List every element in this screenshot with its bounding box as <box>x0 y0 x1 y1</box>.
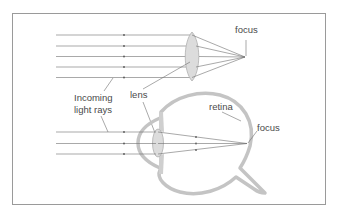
eye-focus-label: focus <box>257 122 280 133</box>
incoming-label-line1: Incoming <box>74 92 113 103</box>
top-focus-label: focus <box>235 24 258 35</box>
diagram-frame <box>13 14 326 205</box>
eye-lens <box>153 129 164 157</box>
incoming-label-line2: light rays <box>74 104 112 115</box>
retina-label: retina <box>209 101 233 112</box>
eye-lens-focus-diagram: focus Incoming light rays lens <box>0 0 343 212</box>
lens-label: lens <box>130 89 148 100</box>
